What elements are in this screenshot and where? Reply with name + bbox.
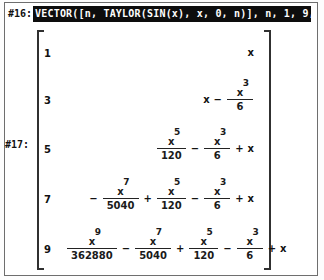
taylor-polynomial: x5120−x36+x [66,137,264,161]
matrix-row: 9x9362880−x75040+x5120−x36+x [44,226,264,272]
highlight-bar[interactable]: VECTOR([n, TAYLOR(SIN(x), x, 0, n)], n, … [33,6,311,22]
fraction-numerator: x5 [197,237,211,248]
fraction-numerator: x3 [233,88,247,99]
taylor-order: 1 [44,48,66,59]
fraction-denominator: 5040 [103,199,139,211]
fraction: x36 [226,88,254,112]
taylor-order: 9 [44,244,66,255]
derive-screen: #16: VECTOR([n, TAYLOR(SIN(x), x, 0, n)]… [0,0,324,280]
exponent: 3 [243,79,249,88]
fraction-numerator: x5 [164,137,178,148]
taylor-order: 5 [44,144,66,155]
fraction-denominator: 120 [157,149,186,161]
fraction-denominator: 6 [242,249,257,261]
operator-symbol: + [140,194,156,204]
operator-symbol: − [85,194,101,204]
bracket-right-icon [264,30,271,270]
taylor-polynomial: x9362880−x75040+x5120−x36+x [66,237,296,261]
fraction-denominator: 120 [189,249,218,261]
matrix-rows: 1x3x−x365x5120−x36+x7−x75040+x5120−x36+x… [44,30,264,270]
variable-term: x [248,48,254,58]
taylor-polynomial: x−x36 [66,88,264,112]
exponent: 7 [123,178,129,187]
fraction: x9362880 [66,237,118,261]
expression-label-16: #16: [8,8,32,19]
result-matrix[interactable]: 1x3x−x365x5120−x36+x7−x75040+x5120−x36+x… [37,30,271,270]
expression-line-16[interactable]: #16: VECTOR([n, TAYLOR(SIN(x), x, 0, n)]… [0,6,324,23]
fraction-numerator: x3 [210,137,224,148]
fraction-numerator: x9 [85,237,99,248]
fraction-numerator: x5 [164,187,178,198]
operator-symbol: − [210,95,226,105]
fraction: x75040 [102,187,140,211]
expression-label-17: #17: [5,139,29,150]
expression-text-16: VECTOR([n, TAYLOR(SIN(x), x, 0, n)], n, … [35,8,311,19]
fraction-numerator: x3 [210,187,224,198]
fraction-denominator: 6 [210,149,225,161]
exponent: 7 [156,228,162,237]
exponent: 5 [207,228,213,237]
exponent: 3 [220,128,226,137]
exponent: 3 [220,178,226,187]
operator-symbol: + [231,194,247,204]
exponent: 9 [95,228,101,237]
exponent: 5 [174,128,180,137]
fraction-numerator: x7 [113,187,127,198]
operator-symbol: − [187,194,203,204]
matrix-row: 5x5120−x36+x [44,126,264,172]
fraction-numerator: x7 [146,237,160,248]
exponent: 3 [252,228,258,237]
fraction-denominator: 6 [210,199,225,211]
operator-symbol: + [231,144,247,154]
variable-term: x [280,244,286,254]
variable-term: x [248,144,254,154]
fraction: x75040 [134,237,172,261]
variable-term: x [248,194,254,204]
operator-symbol: − [118,244,134,254]
matrix-row: 3x−x36 [44,78,264,122]
operator-symbol: + [264,244,280,254]
taylor-polynomial: x [66,48,264,58]
matrix-row: 7−x75040+x5120−x36+x [44,176,264,222]
operator-symbol: + [172,244,188,254]
matrix-row: 1x [44,34,264,72]
taylor-polynomial: −x75040+x5120−x36+x [66,187,264,211]
fraction: x5120 [156,137,187,161]
exponent: 5 [174,178,180,187]
fraction-denominator: 120 [157,199,186,211]
operator-symbol: − [219,244,235,254]
fraction: x36 [203,187,231,211]
fraction: x36 [236,237,264,261]
fraction-denominator: 6 [233,100,248,112]
fraction-denominator: 5040 [135,249,171,261]
fraction-numerator: x3 [242,237,256,248]
fraction: x5120 [156,187,187,211]
fraction-denominator: 362880 [67,249,117,261]
taylor-order: 7 [44,194,66,205]
operator-symbol: − [187,144,203,154]
bracket-left-icon [37,30,44,270]
taylor-order: 3 [44,95,66,106]
fraction: x5120 [188,237,219,261]
fraction: x36 [203,137,231,161]
